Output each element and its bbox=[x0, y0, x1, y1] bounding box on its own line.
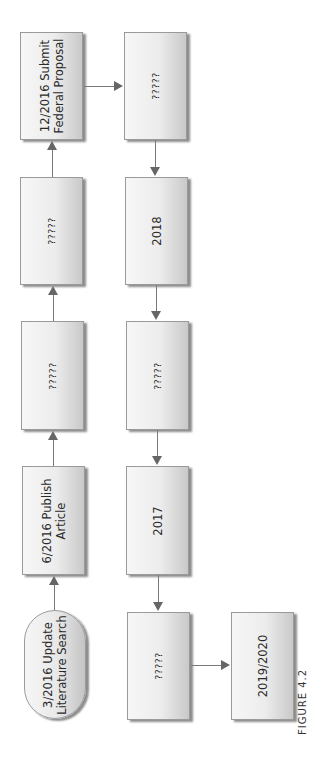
node-label: 6/2016 Publish Article bbox=[40, 478, 68, 563]
arrowhead-down-icon bbox=[150, 167, 160, 176]
figure-caption: FIGURE 4.2 bbox=[297, 669, 308, 735]
arrowhead-down-icon bbox=[153, 602, 163, 611]
node-label: 2019/2020 bbox=[256, 635, 270, 697]
edge-line bbox=[84, 86, 115, 87]
node-label: ????? bbox=[151, 362, 165, 390]
edge-line bbox=[156, 285, 157, 312]
node-label: 2017 bbox=[151, 506, 165, 535]
node-unknown-step-1: ????? bbox=[21, 321, 84, 430]
node-submit-federal-proposal: 12/2016 Submit Federal Proposal bbox=[20, 32, 83, 140]
edge-line bbox=[52, 150, 53, 177]
node-label: ????? bbox=[46, 362, 60, 390]
edge-line bbox=[53, 295, 54, 321]
node-label: ????? bbox=[45, 217, 59, 245]
edge-line bbox=[155, 140, 156, 168]
node-unknown-step-3: ????? bbox=[124, 32, 187, 140]
arrowhead-right-icon bbox=[221, 660, 230, 670]
node-label: ????? bbox=[152, 652, 166, 680]
node-update-literature-search: 3/2016 Update Literature Search bbox=[24, 610, 86, 719]
node-label: 3/2016 Update Literature Search bbox=[41, 615, 69, 714]
node-label: ????? bbox=[149, 72, 163, 100]
edge-line bbox=[53, 440, 54, 466]
edge-line bbox=[191, 665, 222, 666]
node-unknown-step-4: ????? bbox=[126, 321, 189, 430]
edge-line bbox=[54, 585, 55, 610]
node-2018: 2018 bbox=[125, 177, 188, 285]
edge-line bbox=[157, 430, 158, 457]
node-2019-2020: 2019/2020 bbox=[231, 612, 294, 720]
node-unknown-step-2: ????? bbox=[20, 177, 83, 285]
arrowhead-up-icon bbox=[48, 286, 58, 295]
node-label: 12/2016 Submit Federal Proposal bbox=[38, 39, 66, 134]
arrowhead-down-icon bbox=[151, 311, 161, 320]
arrowhead-up-icon bbox=[47, 141, 57, 150]
node-2017: 2017 bbox=[126, 466, 189, 575]
edge-line bbox=[158, 575, 159, 603]
node-unknown-step-5: ????? bbox=[127, 612, 190, 720]
node-label: 2018 bbox=[150, 216, 164, 245]
arrowhead-down-icon bbox=[152, 456, 162, 465]
node-publish-article: 6/2016 Publish Article bbox=[22, 466, 85, 575]
arrowhead-up-icon bbox=[49, 576, 59, 585]
arrowhead-up-icon bbox=[48, 431, 58, 440]
arrowhead-right-icon bbox=[114, 81, 123, 91]
